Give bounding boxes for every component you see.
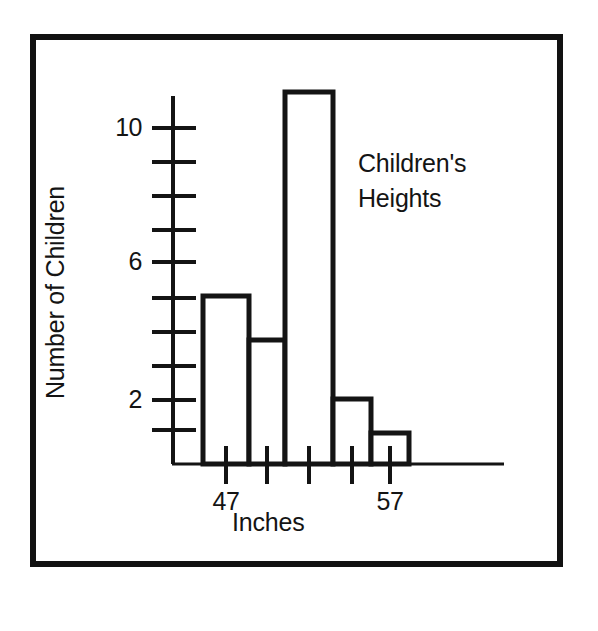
y-tick-label-10: 10 (86, 113, 142, 142)
y-axis-title: Number of Children (41, 178, 70, 408)
figure-page: 10 6 2 47 57 Number of Children Inches C… (0, 0, 598, 631)
x-tick-label-57: 57 (362, 487, 418, 516)
bar-3 (285, 92, 333, 464)
y-tick-label-2: 2 (86, 385, 142, 414)
x-axis-title: Inches (232, 508, 304, 537)
y-tick-label-6: 6 (86, 247, 142, 276)
chart-title: Children's Heights (358, 146, 466, 216)
bar-1 (203, 296, 249, 464)
bar-2 (249, 340, 285, 464)
